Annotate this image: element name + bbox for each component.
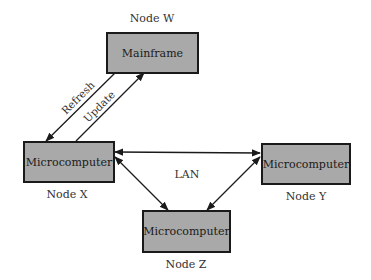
node-x-label: Node X <box>46 188 87 201</box>
node-y-label: Node Y <box>286 190 327 203</box>
edge-x-z <box>115 157 168 210</box>
edge-x-y <box>115 152 260 153</box>
mainframe-box: Mainframe <box>106 32 199 74</box>
node-z-label: Node Z <box>166 258 207 271</box>
lan-label: LAN <box>175 168 200 181</box>
node-w-label: Node W <box>130 12 175 25</box>
microcomputer-y-box: Microcomputer <box>261 143 351 185</box>
microcomputer-x-box: Microcomputer <box>23 141 115 183</box>
microcomputer-z-box: Microcomputer <box>142 210 231 253</box>
edge-y-z <box>207 157 260 210</box>
